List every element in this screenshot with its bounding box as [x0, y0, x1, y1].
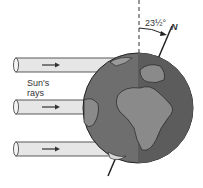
europe-landmass	[140, 65, 165, 83]
sun-rays-label-line2: rays	[27, 88, 44, 98]
sun-rays-label-line1: Sun's	[27, 78, 49, 88]
north-label: N	[171, 22, 178, 32]
globe	[83, 53, 193, 163]
angle-label: 23½°	[145, 18, 166, 28]
tilt-angle-arc	[139, 28, 164, 34]
sun-ray-middle	[14, 100, 87, 114]
